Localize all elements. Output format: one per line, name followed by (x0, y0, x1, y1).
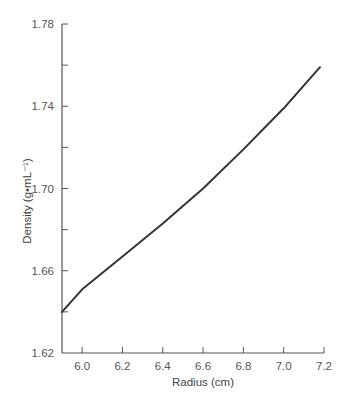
y-tick-label: 1.70 (32, 183, 54, 195)
data-line (62, 67, 320, 312)
x-axis: 6.06.26.46.66.87.07.2 (62, 347, 332, 372)
y-axis-title: Density (g•mL⁻¹) (21, 158, 33, 244)
y-axis: 1.621.661.701.741.78 (32, 18, 68, 359)
x-axis-title: Radius (cm) (172, 376, 234, 388)
x-tick-label: 6.2 (114, 360, 130, 372)
x-tick-label: 6.0 (74, 360, 90, 372)
plot-area (62, 67, 320, 312)
x-tick-label: 6.8 (235, 360, 251, 372)
x-tick-label: 7.2 (316, 360, 332, 372)
x-tick-label: 6.6 (195, 360, 211, 372)
density-radius-chart: 1.621.661.701.741.78 6.06.26.46.66.87.07… (0, 0, 346, 399)
y-tick-label: 1.62 (32, 347, 54, 359)
x-tick-label: 7.0 (276, 360, 292, 372)
x-tick-label: 6.4 (155, 360, 172, 372)
y-tick-label: 1.74 (32, 100, 55, 112)
y-tick-label: 1.66 (32, 265, 54, 277)
y-tick-label: 1.78 (32, 18, 54, 30)
